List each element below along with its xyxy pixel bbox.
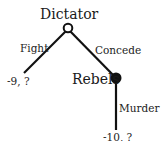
fight-label: Fight bbox=[20, 43, 48, 54]
fight-payoff: -9, ? bbox=[7, 76, 30, 87]
murder-label: Murder bbox=[119, 103, 160, 114]
murder-payoff: -10, ? bbox=[103, 132, 132, 141]
dictator-node bbox=[64, 24, 73, 33]
dictator-label: Dictator bbox=[40, 7, 98, 21]
concede-label: Concede bbox=[95, 45, 141, 56]
rebels-label: Rebels bbox=[72, 72, 120, 86]
